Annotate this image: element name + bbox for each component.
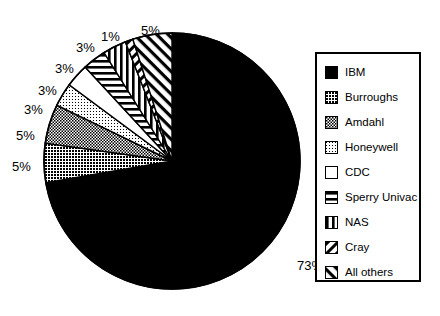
legend-swatch-icon <box>325 266 338 279</box>
legend-item[interactable]: CDC <box>317 160 419 185</box>
legend-swatch-icon <box>325 241 338 254</box>
legend-item-label: Cray <box>345 242 369 254</box>
legend-item[interactable]: Sperry Univac <box>317 185 419 210</box>
legend-swatch-icon <box>325 66 338 79</box>
pie-slice-percent-label: 3% <box>24 103 43 116</box>
legend-swatch-icon <box>325 191 338 204</box>
pie-slices-group <box>44 33 300 289</box>
legend-item-label: Honeywell <box>345 142 398 154</box>
legend-item[interactable]: NAS <box>317 210 419 235</box>
pie-chart-figure: 73%5%5%3%3%3%3%1%5% IBMBurroughsAmdahlHo… <box>0 0 440 316</box>
pie-slice-percent-label: 1% <box>101 30 120 43</box>
legend-item-label: IBM <box>345 67 365 79</box>
legend-item-label: NAS <box>345 217 369 229</box>
legend-item-label: Sperry Univac <box>345 192 417 204</box>
legend-item[interactable]: Burroughs <box>317 85 419 110</box>
legend-swatch-icon <box>325 141 338 154</box>
legend-item-label: Amdahl <box>345 117 384 129</box>
legend-swatch-icon <box>325 91 338 104</box>
legend-item[interactable]: Honeywell <box>317 135 419 160</box>
legend-item-label: All others <box>345 267 393 279</box>
pie-slice-percent-label: 3% <box>76 41 95 54</box>
pie-slice-percent-label: 3% <box>55 62 74 75</box>
legend-item[interactable]: IBM <box>317 60 419 85</box>
chart-legend: IBMBurroughsAmdahlHoneywellCDCSperry Uni… <box>315 52 421 282</box>
pie-slice-percent-label: 5% <box>16 129 35 142</box>
legend-swatch-icon <box>325 166 338 179</box>
pie-slice-percent-label: 5% <box>141 24 160 37</box>
pie-slice-percent-label: 5% <box>12 160 31 173</box>
legend-swatch-icon <box>325 216 338 229</box>
legend-item[interactable]: All others <box>317 260 419 285</box>
legend-swatch-icon <box>325 116 338 129</box>
legend-item[interactable]: Amdahl <box>317 110 419 135</box>
legend-item-label: CDC <box>345 167 370 179</box>
pie-slice-percent-label: 3% <box>38 84 57 97</box>
legend-item[interactable]: Cray <box>317 235 419 260</box>
legend-item-label: Burroughs <box>345 92 398 104</box>
